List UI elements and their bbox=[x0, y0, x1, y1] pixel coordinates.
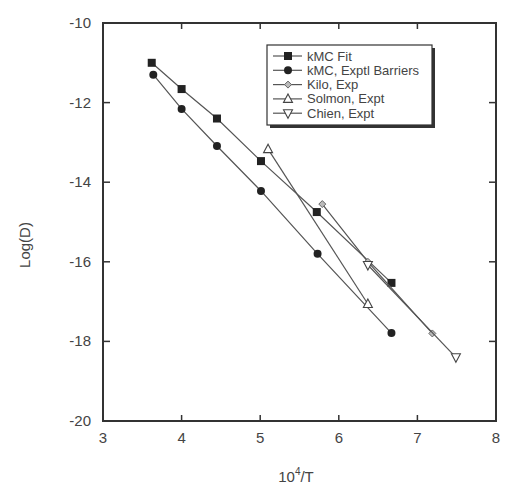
x-tick-label: 7 bbox=[413, 429, 421, 446]
legend-label: Kilo, Exp bbox=[307, 77, 358, 92]
y-tick-label: -14 bbox=[69, 173, 91, 190]
circle-marker bbox=[284, 66, 292, 74]
x-tick-label: 8 bbox=[492, 429, 500, 446]
legend-label: Solmon, Expt bbox=[307, 91, 385, 106]
square-marker bbox=[213, 115, 221, 123]
chart: -10-12-14-16-18-20 345678 kMC FitkMC, Ex… bbox=[0, 0, 505, 492]
triangle-up-marker bbox=[264, 144, 273, 153]
y-tick-label: -18 bbox=[69, 332, 91, 349]
series-chien-expt bbox=[363, 261, 460, 362]
series-solmon-expt bbox=[264, 144, 373, 307]
square-marker bbox=[148, 59, 156, 67]
circle-marker bbox=[257, 187, 265, 195]
x-tick-label: 6 bbox=[335, 429, 343, 446]
x-axis-title: 104/T bbox=[278, 466, 314, 485]
square-marker bbox=[313, 208, 321, 216]
square-marker bbox=[178, 85, 186, 93]
x-axis-title-base: 10 bbox=[278, 468, 295, 485]
series-line bbox=[268, 149, 368, 304]
x-tick-label: 3 bbox=[99, 429, 107, 446]
square-marker bbox=[284, 52, 292, 60]
series-line bbox=[368, 265, 456, 357]
y-tick-label: -16 bbox=[69, 253, 91, 270]
x-tick-label: 5 bbox=[256, 429, 264, 446]
triangle-down-marker bbox=[451, 354, 460, 363]
y-tick-label: -10 bbox=[69, 14, 91, 31]
legend-label: Chien, Expt bbox=[307, 106, 375, 121]
y-tick-label: -12 bbox=[69, 94, 91, 111]
circle-marker bbox=[149, 71, 157, 79]
legend-label: kMC Fit bbox=[307, 49, 352, 64]
triangle-up-marker bbox=[363, 299, 372, 308]
circle-marker bbox=[387, 329, 395, 337]
legend-label: kMC, Exptl Barriers bbox=[307, 63, 419, 78]
legend: kMC FitkMC, Exptl BarriersKilo, ExpSolmo… bbox=[267, 45, 435, 128]
circle-marker bbox=[314, 250, 322, 258]
y-axis-title: Log(D) bbox=[16, 222, 33, 268]
circle-marker bbox=[213, 142, 221, 150]
square-marker bbox=[257, 157, 265, 165]
x-axis-title-rest: /T bbox=[300, 468, 313, 485]
y-tick-label: -20 bbox=[69, 412, 91, 429]
x-tick-label: 4 bbox=[177, 429, 185, 446]
circle-marker bbox=[178, 105, 186, 113]
